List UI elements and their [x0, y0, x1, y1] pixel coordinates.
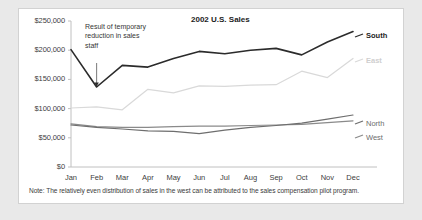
x-axis-tick-label: Jan — [57, 173, 85, 182]
y-axis-tick-label: $150,000 — [35, 74, 65, 83]
chart-title: 2002 U.S. Sales — [191, 15, 250, 24]
chart-footnote: Note: The relatively even distribution o… — [29, 187, 399, 194]
series-label-north: North — [366, 119, 384, 128]
x-axis-tick-label: Sep — [262, 173, 290, 182]
annotation-text: Result of temporary reduction in sales s… — [85, 22, 147, 50]
x-axis-tick-label: Jun — [185, 173, 213, 182]
x-axis-tick-label: Mar — [108, 173, 136, 182]
series-label-east: East — [366, 56, 382, 65]
x-axis-tick-label: May — [160, 173, 188, 182]
x-axis-tick-label: Oct — [288, 173, 316, 182]
y-axis-tick-label: $250,000 — [35, 16, 65, 25]
x-axis-tick-label: Aug — [236, 173, 264, 182]
chart-card: 2002 U.S. Sales Result of temporary redu… — [18, 8, 404, 204]
y-axis-tick-label: $100,000 — [35, 104, 65, 113]
x-axis-tick-label: Apr — [134, 173, 162, 182]
screenshot-root: 2002 U.S. Sales Result of temporary redu… — [0, 0, 422, 220]
series-label-south: South — [366, 31, 387, 40]
x-axis-tick-label: Feb — [83, 173, 111, 182]
y-axis-tick-label: $50,000 — [39, 133, 65, 142]
series-label-west: West — [366, 133, 383, 142]
chart-plot-area: 2002 U.S. Sales Result of temporary redu… — [19, 9, 405, 205]
x-axis-tick-label: Dec — [339, 173, 367, 182]
y-axis-tick-label: $0 — [57, 162, 65, 171]
y-axis-tick-label: $200,000 — [35, 45, 65, 54]
x-axis-tick-label: Jul — [211, 173, 239, 182]
x-axis-tick-label: Nov — [313, 173, 341, 182]
